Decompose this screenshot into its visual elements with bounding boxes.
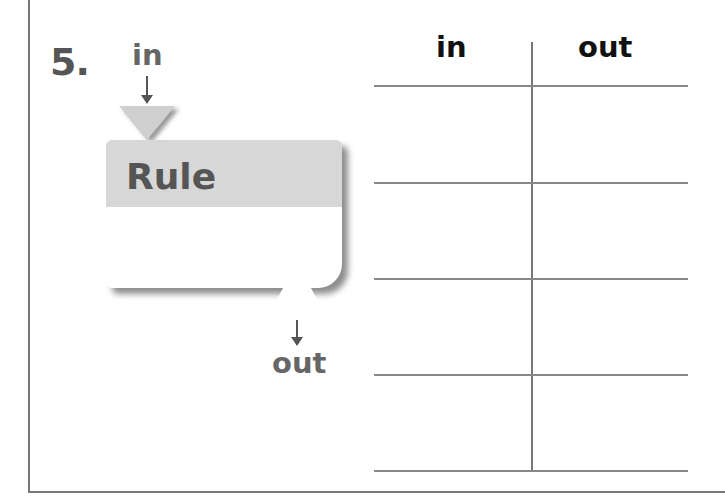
table-row-line [374,182,688,184]
rule-machine-title: Rule [126,156,216,197]
input-funnel-icon [119,106,175,140]
table-header-in: in [436,30,467,64]
table-row-line [374,85,688,87]
table-row-line [374,278,688,280]
input-arrow-icon [146,76,148,102]
machine-input-label: in [132,38,163,72]
table-column-divider [531,42,533,471]
output-funnel-icon [272,288,322,318]
table-row-line [374,374,688,376]
problem-number: 5. [50,40,89,84]
table-row-line [374,470,688,472]
output-arrow-icon [296,320,298,344]
page-frame-bottom [28,491,725,493]
rule-machine: Rule [106,140,342,288]
table-header-out: out [578,30,632,64]
machine-output-label: out [272,346,326,380]
page-frame-left [28,0,30,493]
in-out-table: in out [374,0,688,480]
